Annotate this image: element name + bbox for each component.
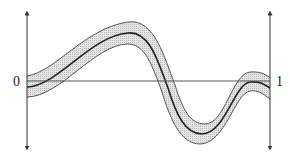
- diagram-canvas: 0 1: [0, 0, 290, 157]
- confidence-band: [27, 22, 270, 144]
- left-axis-label: 0: [13, 74, 20, 89]
- right-axis-label: 1: [276, 74, 283, 89]
